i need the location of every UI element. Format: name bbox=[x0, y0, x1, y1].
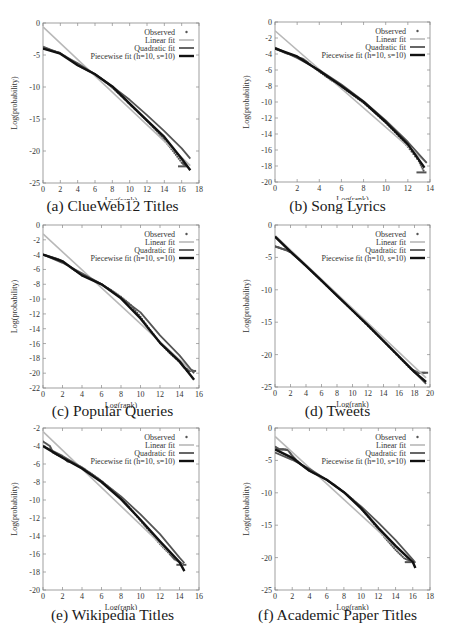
y-tick-label: -2 bbox=[33, 424, 40, 433]
y-tick-label: -5 bbox=[265, 253, 272, 262]
x-tick-label: 2 bbox=[289, 389, 293, 398]
y-tick-label: -25 bbox=[29, 179, 40, 188]
chart-panel-d: 024681012141618200-5-10-15-20-25Log(rank… bbox=[225, 203, 450, 418]
x-tick-label: 0 bbox=[273, 592, 277, 601]
x-tick-label: 10 bbox=[137, 390, 145, 399]
x-tick-label: 4 bbox=[80, 390, 84, 399]
plot-frame bbox=[43, 428, 199, 590]
chart-panel-c: 02468101214160-2-4-6-8-10-12-14-16-18-20… bbox=[0, 203, 225, 418]
y-tick-label: -18 bbox=[29, 354, 40, 363]
chart-d-plot: 024681012141618200-5-10-15-20-25Log(rank… bbox=[225, 203, 450, 408]
x-tick-label: 0 bbox=[41, 390, 45, 399]
y-tick-label: -8 bbox=[33, 280, 40, 289]
x-tick-label: 6 bbox=[320, 389, 324, 398]
y-tick-label: -5 bbox=[265, 456, 272, 465]
x-tick-label: 20 bbox=[426, 389, 434, 398]
y-axis-label: Log(probability) bbox=[242, 279, 251, 333]
x-tick-label: 10 bbox=[137, 592, 145, 601]
x-tick-label: 8 bbox=[335, 389, 339, 398]
y-tick-label: -10 bbox=[29, 83, 40, 92]
x-tick-label: 8 bbox=[119, 390, 123, 399]
x-tick-label: 2 bbox=[295, 184, 299, 193]
x-tick-label: 6 bbox=[100, 592, 104, 601]
chart-c-plot: 02468101214160-2-4-6-8-10-12-14-16-18-20… bbox=[0, 203, 225, 408]
piecewise-fit-line bbox=[43, 255, 194, 380]
chart-b-plot: 024681012140-2-4-6-8-10-12-14-16-18-20Lo… bbox=[225, 0, 450, 200]
y-tick-label: -25 bbox=[261, 383, 272, 392]
chart-legend: ObservedLinear fitQuadratic fitPiecewise… bbox=[90, 28, 194, 61]
x-tick-label: 12 bbox=[364, 389, 372, 398]
chart-panel-b: 024681012140-2-4-6-8-10-12-14-16-18-20Lo… bbox=[225, 0, 450, 215]
x-tick-label: 6 bbox=[339, 184, 343, 193]
y-tick-label: -12 bbox=[29, 310, 40, 319]
x-tick-label: 10 bbox=[357, 592, 365, 601]
chart-legend: ObservedLinear fitQuadratic fitPiecewise… bbox=[321, 230, 425, 263]
y-tick-label: -20 bbox=[29, 369, 40, 378]
x-tick-label: 18 bbox=[195, 185, 203, 194]
observed-series bbox=[274, 47, 427, 172]
plot-frame bbox=[275, 428, 430, 590]
chart-legend: ObservedLinear fitQuadratic fitPiecewise… bbox=[321, 27, 425, 60]
x-tick-label: 12 bbox=[374, 592, 382, 601]
x-tick-label: 6 bbox=[93, 185, 97, 194]
x-tick-label: 16 bbox=[178, 185, 186, 194]
x-tick-label: 14 bbox=[176, 390, 184, 399]
x-tick-label: 16 bbox=[395, 389, 403, 398]
observed-series bbox=[42, 48, 188, 167]
y-tick-label: -18 bbox=[29, 568, 40, 577]
legend-label: Piecewise fit (h=10, s=10) bbox=[321, 254, 406, 263]
x-tick-label: 0 bbox=[41, 185, 45, 194]
y-tick-label: -10 bbox=[261, 98, 272, 107]
y-tick-label: -15 bbox=[29, 115, 40, 124]
x-tick-label: 18 bbox=[411, 389, 419, 398]
legend-label: Piecewise fit (h=10, s=10) bbox=[90, 457, 175, 466]
y-tick-label: -15 bbox=[261, 521, 272, 530]
y-tick-label: 0 bbox=[268, 221, 272, 230]
legend-label: Piecewise fit (h=10, s=10) bbox=[321, 457, 406, 466]
y-tick-label: 0 bbox=[268, 18, 272, 27]
chart-panel-f: 0246810121416180-5-10-15-20-25Log(rank)L… bbox=[225, 410, 450, 643]
x-tick-label: 8 bbox=[119, 592, 123, 601]
y-tick-label: -16 bbox=[261, 146, 272, 155]
y-tick-label: -14 bbox=[29, 532, 40, 541]
y-axis-label: Log(probability) bbox=[10, 76, 19, 130]
x-tick-label: 0 bbox=[41, 592, 45, 601]
y-tick-label: -4 bbox=[33, 442, 40, 451]
y-tick-label: -12 bbox=[261, 114, 272, 123]
x-tick-label: 4 bbox=[317, 184, 321, 193]
y-tick-label: -20 bbox=[261, 554, 272, 563]
x-tick-label: 8 bbox=[110, 185, 114, 194]
y-tick-label: -10 bbox=[29, 496, 40, 505]
y-tick-label: 0 bbox=[268, 424, 272, 433]
x-tick-label: 2 bbox=[290, 592, 294, 601]
y-tick-label: -6 bbox=[33, 460, 40, 469]
x-tick-label: 10 bbox=[126, 185, 134, 194]
x-tick-label: 16 bbox=[409, 592, 417, 601]
x-tick-label: 8 bbox=[342, 592, 346, 601]
x-tick-label: 14 bbox=[160, 185, 168, 194]
y-tick-label: -2 bbox=[33, 236, 40, 245]
y-axis-label: Log(probability) bbox=[10, 482, 19, 536]
x-tick-label: 4 bbox=[76, 185, 80, 194]
y-tick-label: -8 bbox=[265, 82, 272, 91]
y-tick-label: -2 bbox=[265, 34, 272, 43]
piecewise-fit-line bbox=[275, 449, 415, 568]
legend-label: Piecewise fit (h=10, s=10) bbox=[321, 51, 406, 60]
piecewise-fit-line bbox=[275, 48, 425, 167]
y-tick-label: -14 bbox=[261, 130, 272, 139]
y-axis-label: Log(probability) bbox=[242, 482, 251, 536]
x-tick-label: 10 bbox=[382, 184, 390, 193]
x-tick-label: 2 bbox=[58, 185, 62, 194]
y-tick-label: -18 bbox=[261, 162, 272, 171]
chart-legend: ObservedLinear fitQuadratic fitPiecewise… bbox=[90, 230, 194, 263]
y-tick-label: -6 bbox=[33, 265, 40, 274]
x-tick-label: 12 bbox=[143, 185, 151, 194]
x-tick-label: 16 bbox=[195, 390, 203, 399]
x-tick-label: 14 bbox=[380, 389, 388, 398]
x-tick-label: 0 bbox=[273, 184, 277, 193]
y-tick-label: -4 bbox=[33, 251, 40, 260]
x-tick-label: 6 bbox=[325, 592, 329, 601]
y-tick-label: -5 bbox=[33, 51, 40, 60]
legend-label: Piecewise fit (h=10, s=10) bbox=[90, 52, 175, 61]
y-tick-label: -22 bbox=[29, 384, 40, 393]
